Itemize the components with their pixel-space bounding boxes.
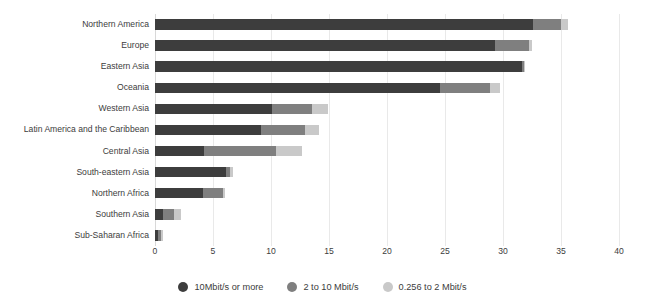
bar-segment[interactable] — [155, 188, 203, 198]
bar-segment[interactable] — [155, 209, 163, 219]
category-label-row: Central Asia — [0, 141, 149, 162]
x-axis-tick-label: 0 — [153, 246, 158, 256]
bar-segment[interactable] — [529, 40, 532, 50]
bar-row[interactable] — [155, 204, 619, 225]
category-label-row: Northern Africa — [0, 183, 149, 204]
x-axis-tick-label: 10 — [266, 246, 276, 256]
x-axis-tick-label: 40 — [614, 246, 624, 256]
stacked-bar[interactable] — [155, 83, 500, 93]
bar-segment[interactable] — [155, 125, 261, 135]
bar-segment[interactable] — [155, 83, 440, 93]
category-label-row: Northern America — [0, 14, 149, 35]
bar-row[interactable] — [155, 98, 619, 119]
bar-row[interactable] — [155, 183, 619, 204]
bar-row[interactable] — [155, 56, 619, 77]
bar-segment[interactable] — [533, 19, 561, 29]
bar-segment[interactable] — [155, 61, 522, 71]
stacked-bar[interactable] — [155, 61, 525, 71]
category-label-row: Eastern Asia — [0, 56, 149, 77]
category-label: Latin America and the Caribbean — [24, 119, 149, 140]
legend-item[interactable]: 2 to 10 Mbit/s — [287, 282, 358, 292]
category-label: Eastern Asia — [101, 56, 149, 77]
bar-segment[interactable] — [276, 146, 303, 156]
bar-segment[interactable] — [155, 146, 204, 156]
x-axis-tick-label: 20 — [382, 246, 392, 256]
stacked-bar-chart: Northern AmericaEuropeEastern AsiaOceani… — [0, 0, 645, 306]
bar-segment[interactable] — [312, 104, 328, 114]
bar-segment[interactable] — [261, 125, 305, 135]
bar-row[interactable] — [155, 119, 619, 140]
legend-swatch-circle-icon — [383, 282, 393, 292]
legend-label: 0.256 to 2 Mbit/s — [399, 282, 467, 292]
legend-label: 10Mbit/s or more — [194, 282, 263, 292]
bar-segment[interactable] — [230, 167, 232, 177]
x-axis-tick-label: 25 — [440, 246, 450, 256]
bar-segment[interactable] — [204, 146, 276, 156]
bar-row[interactable] — [155, 225, 619, 246]
stacked-bar[interactable] — [155, 230, 163, 240]
bar-segment[interactable] — [155, 19, 533, 29]
bar-segment[interactable] — [155, 104, 272, 114]
stacked-bar[interactable] — [155, 104, 328, 114]
x-axis: 0510152025303540 — [155, 246, 619, 262]
stacked-bar[interactable] — [155, 146, 302, 156]
bar-segment[interactable] — [305, 125, 319, 135]
category-label-row: Western Asia — [0, 98, 149, 119]
category-label: Northern Africa — [92, 183, 149, 204]
category-label-row: South-eastern Asia — [0, 162, 149, 183]
bar-segment[interactable] — [161, 230, 163, 240]
bar-segment[interactable] — [174, 209, 181, 219]
category-label: Southern Asia — [95, 204, 149, 225]
category-label-row: Southern Asia — [0, 204, 149, 225]
bar-segment[interactable] — [490, 83, 499, 93]
category-label: Northern America — [82, 14, 149, 35]
chart-legend: 10Mbit/s or more2 to 10 Mbit/s0.256 to 2… — [0, 277, 645, 297]
bar-segment[interactable] — [495, 40, 529, 50]
legend-label: 2 to 10 Mbit/s — [303, 282, 358, 292]
bar-segment[interactable] — [272, 104, 311, 114]
category-label: Oceania — [117, 77, 149, 98]
plot-area — [155, 14, 619, 246]
gridline-40 — [619, 14, 620, 246]
stacked-bar[interactable] — [155, 167, 233, 177]
bar-row[interactable] — [155, 35, 619, 56]
bar-segment[interactable] — [155, 167, 226, 177]
category-label-row: Latin America and the Caribbean — [0, 119, 149, 140]
category-label-row: Oceania — [0, 77, 149, 98]
category-label-row: Europe — [0, 35, 149, 56]
x-axis-tick-label: 30 — [498, 246, 508, 256]
category-label: Central Asia — [103, 141, 149, 162]
bar-segment[interactable] — [155, 40, 495, 50]
category-label: Western Asia — [99, 98, 149, 119]
bar-segment[interactable] — [223, 188, 224, 198]
x-axis-tick-label: 35 — [556, 246, 566, 256]
category-label-column: Northern AmericaEuropeEastern AsiaOceani… — [0, 14, 149, 246]
bar-row[interactable] — [155, 14, 619, 35]
bar-segment[interactable] — [440, 83, 490, 93]
category-label-row: Sub-Saharan Africa — [0, 225, 149, 246]
bar-segment[interactable] — [203, 188, 224, 198]
legend-swatch-circle-icon — [178, 282, 188, 292]
bar-segment[interactable] — [524, 61, 525, 71]
category-label: Sub-Saharan Africa — [74, 225, 149, 246]
category-label: Europe — [121, 35, 149, 56]
stacked-bar[interactable] — [155, 125, 319, 135]
x-axis-tick-label: 5 — [211, 246, 216, 256]
legend-item[interactable]: 10Mbit/s or more — [178, 282, 263, 292]
bar-segment[interactable] — [163, 209, 173, 219]
legend-item[interactable]: 0.256 to 2 Mbit/s — [383, 282, 467, 292]
bar-row[interactable] — [155, 162, 619, 183]
bar-row[interactable] — [155, 141, 619, 162]
stacked-bar[interactable] — [155, 209, 181, 219]
x-axis-tick-label: 15 — [324, 246, 334, 256]
category-label: South-eastern Asia — [76, 162, 149, 183]
stacked-bar[interactable] — [155, 188, 225, 198]
stacked-bar[interactable] — [155, 19, 568, 29]
bar-row[interactable] — [155, 77, 619, 98]
bar-segment[interactable] — [561, 19, 568, 29]
stacked-bar[interactable] — [155, 40, 532, 50]
legend-swatch-circle-icon — [287, 282, 297, 292]
